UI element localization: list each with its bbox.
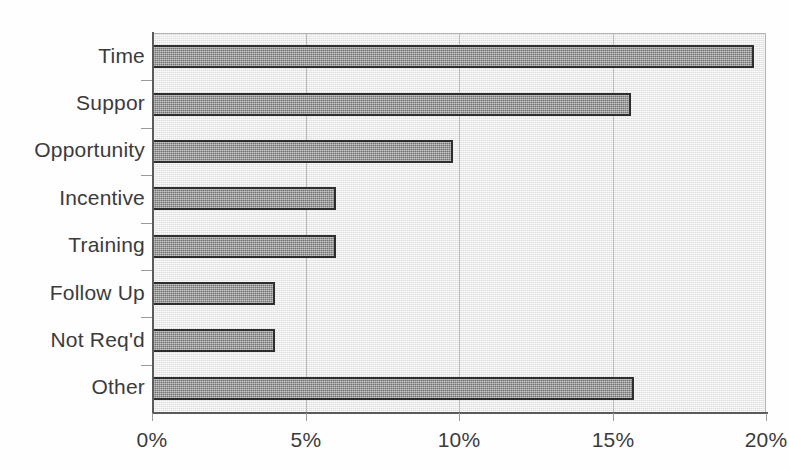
bar bbox=[152, 329, 275, 352]
gridline bbox=[613, 33, 614, 412]
gridline bbox=[459, 33, 460, 412]
bar bbox=[152, 187, 336, 210]
x-axis-tick bbox=[306, 413, 307, 421]
category-label: Opportunity bbox=[0, 138, 145, 162]
x-axis-tick bbox=[613, 413, 614, 421]
gridline bbox=[306, 33, 307, 412]
category-label: Incentive bbox=[0, 186, 145, 210]
x-axis-line bbox=[152, 412, 768, 414]
y-axis-line bbox=[152, 32, 154, 414]
bar bbox=[152, 45, 754, 68]
category-label: Training bbox=[0, 233, 145, 257]
x-axis-tick bbox=[766, 413, 767, 421]
category-label: Time bbox=[0, 44, 145, 68]
category-label: Follow Up bbox=[0, 281, 145, 305]
x-axis-tick-label: 20% bbox=[745, 428, 788, 452]
category-label: Not Req'd bbox=[0, 328, 145, 352]
bar bbox=[152, 282, 275, 305]
category-label: Other bbox=[0, 375, 145, 399]
x-axis-tick-label: 5% bbox=[291, 428, 322, 452]
bar-chart: TimeSupporOpportunityIncentiveTrainingFo… bbox=[0, 0, 789, 470]
x-axis-tick-label: 15% bbox=[592, 428, 635, 452]
x-axis-tick bbox=[152, 413, 153, 421]
x-axis-tick-label: 10% bbox=[438, 428, 481, 452]
x-axis-tick-label: 0% bbox=[137, 428, 168, 452]
bar bbox=[152, 140, 453, 163]
bar bbox=[152, 93, 631, 116]
bar bbox=[152, 377, 634, 400]
category-labels: TimeSupporOpportunityIncentiveTrainingFo… bbox=[0, 0, 145, 470]
x-axis-tick bbox=[459, 413, 460, 421]
bar bbox=[152, 235, 336, 258]
category-label: Suppor bbox=[0, 91, 145, 115]
